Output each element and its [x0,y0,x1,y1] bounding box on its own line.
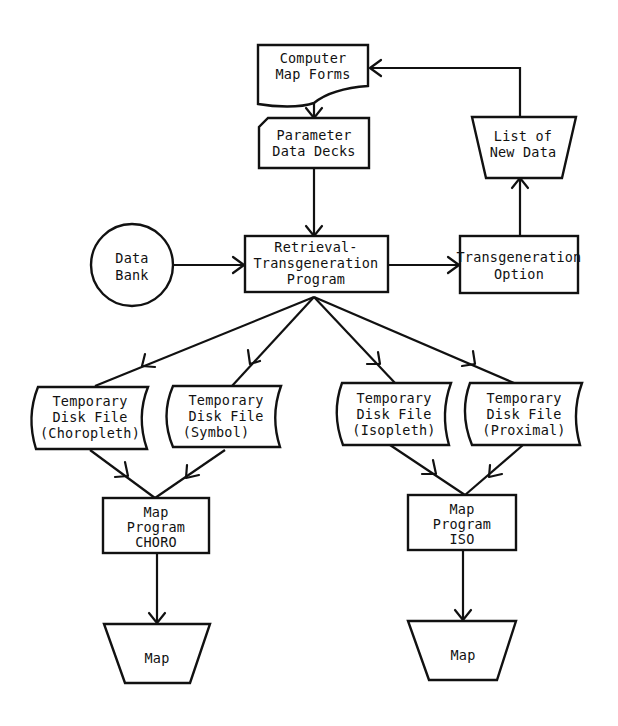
node-map-program-choro: Map Program CHORO [103,498,209,553]
edge-retrieval-to-isopleth [314,297,395,383]
node-label: Disk File [53,409,128,425]
node-map-choro-output: Map [104,624,210,683]
node-label: (Choropleth) [40,425,140,441]
edge-symbol-to-choro [155,450,225,498]
node-label: Map [450,501,475,517]
node-label: CHORO [135,534,177,550]
node-label: Temporary [487,390,562,406]
node-transgeneration-option: Transgeneration Option [457,236,582,293]
node-label: Disk File [189,408,264,424]
node-label: Option [494,266,544,282]
node-computer-map-forms: Computer Map Forms [258,45,368,107]
node-label: Map [144,504,169,520]
edge-retrieval-to-choropleth [95,297,314,386]
node-label: Retrieval- [274,239,357,255]
node-temp-symbol: Temporary Disk File (Symbol) [167,386,282,447]
node-label: Computer [280,50,347,66]
node-label: Bank [115,267,148,283]
node-label: Transgeneration [457,249,582,265]
node-label: Disk File [357,406,432,422]
node-list-of-new-data: List of New Data [472,117,576,178]
node-label: (Symbol) [183,424,250,440]
node-label: Map [145,650,170,666]
node-label: Transgeneration [254,255,379,271]
edge-list-to-forms [370,68,520,117]
node-map-iso-output: Map [408,621,516,680]
node-label: Parameter [277,127,352,143]
edge-retrieval-to-symbol [232,297,314,386]
flowchart-diagram: Computer Map Forms Parameter Data Decks … [0,0,618,726]
node-label: Temporary [53,393,128,409]
node-map-program-iso: Map Program ISO [408,495,516,550]
node-data-bank: Data Bank [91,224,173,306]
edge-isopleth-to-iso [390,445,465,495]
node-temp-isopleth: Temporary Disk File (Isopleth) [337,383,451,445]
node-label: Program [127,519,185,535]
node-label: Data Decks [272,143,355,159]
arrowhead-icon [489,465,502,477]
node-label: Temporary [357,390,432,406]
node-label: Temporary [189,392,264,408]
node-label: New Data [490,144,557,160]
node-label: Map Forms [276,66,351,82]
edge-proximal-to-iso [465,445,523,495]
node-temp-choropleth: Temporary Disk File (Choropleth) [31,387,148,449]
node-label: (Isopleth) [352,422,435,438]
edge-choropleth-to-choro [90,450,155,498]
node-label: ISO [450,531,475,547]
node-label: Program [433,516,491,532]
node-retrieval-program: Retrieval- Transgeneration Program [245,236,388,292]
node-temp-proximal: Temporary Disk File (Proximal) [465,383,582,445]
node-parameter-data-decks: Parameter Data Decks [259,118,369,168]
node-label: Disk File [487,406,562,422]
edge-retrieval-to-proximal [314,297,514,383]
node-label: Data [115,250,148,266]
node-label: Program [287,271,345,287]
node-label: List of [494,128,552,144]
node-label: Map [451,647,476,663]
node-label: (Proximal) [482,422,565,438]
